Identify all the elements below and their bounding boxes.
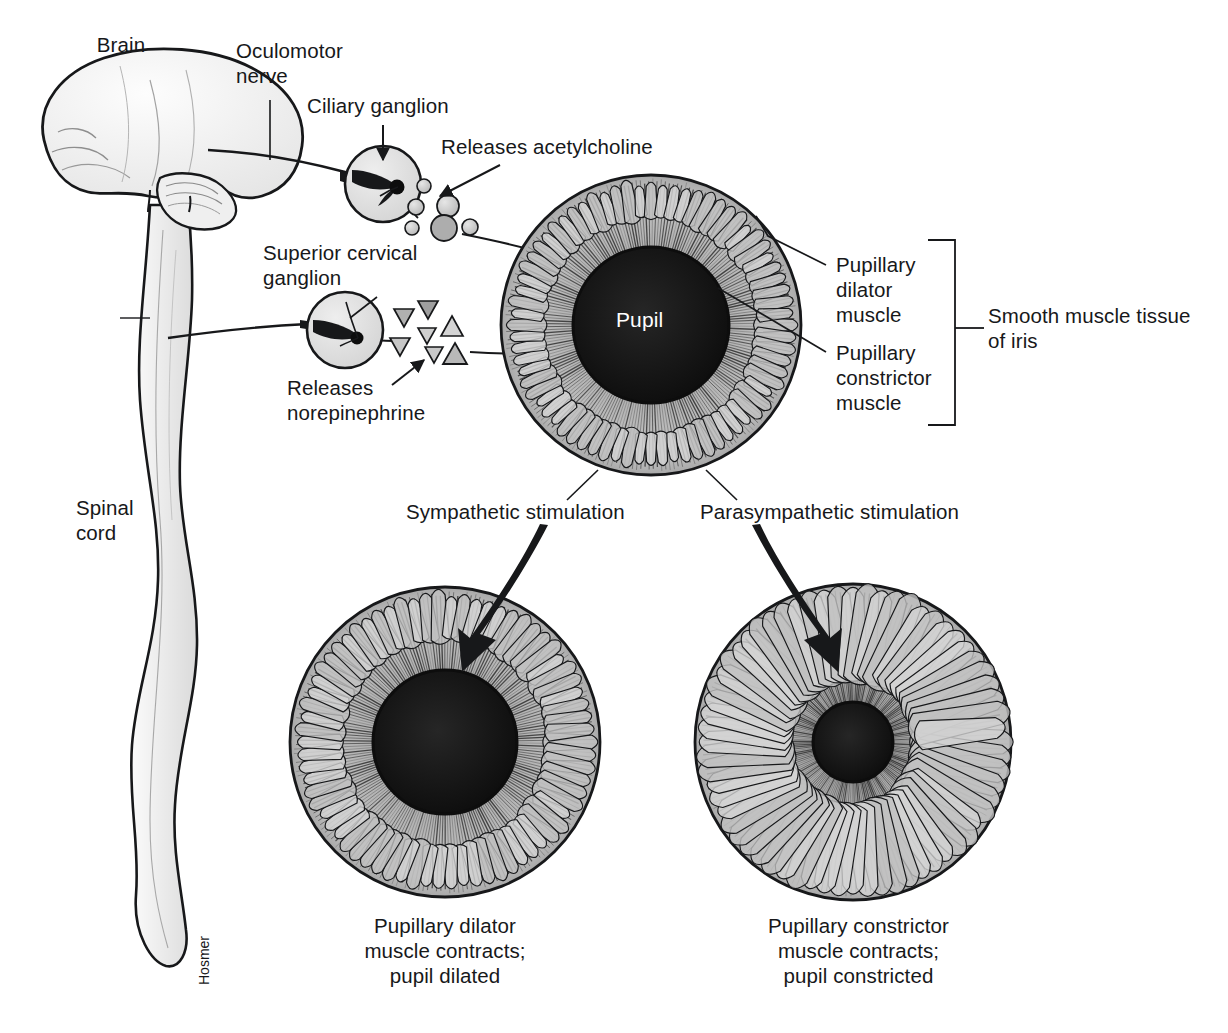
label-spinal-cord: Spinal cord <box>76 495 134 545</box>
caption-constricted: Pupillary constrictor muscle contracts; … <box>716 913 1001 988</box>
iris-dilated <box>290 587 600 897</box>
label-brain: Brain <box>66 32 176 57</box>
caption-dilated: Pupillary dilator muscle contracts; pupi… <box>310 913 580 988</box>
label-superior-cervical-ganglion: Superior cervical ganglion <box>263 240 417 290</box>
label-pupil: Pupil <box>616 307 663 332</box>
norepinephrine-particles <box>390 301 467 364</box>
label-releases-norepinephrine: Releases norepinephrine <box>287 375 425 425</box>
leader-sympathetic <box>567 470 598 500</box>
label-parasympathetic-stimulation: Parasympathetic stimulation <box>700 499 959 524</box>
label-releases-acetylcholine: Releases acetylcholine <box>441 134 653 159</box>
label-pupillary-constrictor-muscle: Pupillary constrictor muscle <box>836 340 932 415</box>
superior-cervical-ganglion-graphic <box>307 292 383 368</box>
spinal-cord-shape <box>131 205 197 966</box>
label-sympathetic-stimulation: Sympathetic stimulation <box>406 499 625 524</box>
artist-signature: Hosmer <box>196 936 212 985</box>
iris-bracket <box>928 240 955 425</box>
label-smooth-muscle-tissue-of-iris: Smooth muscle tissue of iris <box>988 303 1191 353</box>
iris-constricted <box>695 584 1013 900</box>
leader-acetylcholine <box>440 165 500 196</box>
figure-canvas: Brain Oculomotor nerve Ciliary ganglion … <box>0 0 1228 1033</box>
leader-parasympathetic <box>706 470 737 500</box>
label-pupillary-dilator-muscle: Pupillary dilator muscle <box>836 252 916 327</box>
label-ciliary-ganglion: Ciliary ganglion <box>307 93 449 118</box>
label-oculomotor-nerve: Oculomotor nerve <box>236 38 343 88</box>
